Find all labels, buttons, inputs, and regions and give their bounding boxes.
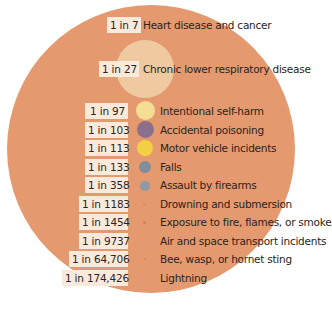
dot-air-transport (144, 240, 146, 242)
odds-box-respiratory: 1 in 27 (99, 61, 139, 77)
label-poisoning: Accidental poisoning (160, 122, 264, 138)
label-bee-sting: Bee, wasp, or hornet sting (160, 251, 292, 267)
dot-bee-sting (144, 258, 146, 260)
label-self-harm: Intentional self-harm (160, 103, 264, 119)
label-lightning: Lightning (160, 270, 207, 286)
dot-poisoning (137, 121, 154, 138)
label-fire: Exposure to fire, flames, or smoke (160, 214, 331, 230)
odds-box-bee-sting: 1 in 64,706 (69, 251, 128, 267)
dot-fire (143, 221, 146, 224)
odds-box-motor-vehicle: 1 in 113 (85, 140, 128, 156)
dot-drowning (143, 203, 146, 206)
label-falls: Falls (160, 159, 182, 175)
dot-motor-vehicle (137, 140, 153, 156)
dot-self-harm (136, 101, 155, 120)
label-heart-disease: Heart disease and cancer (143, 17, 271, 33)
odds-box-lightning: 1 in 174,426 (62, 270, 128, 286)
odds-box-self-harm: 1 in 97 (85, 103, 128, 119)
dot-lightning (144, 277, 145, 278)
label-firearms: Assault by firearms (160, 177, 256, 193)
odds-box-heart-disease: 1 in 7 (107, 17, 141, 33)
odds-box-firearms: 1 in 358 (85, 177, 128, 193)
odds-box-drowning: 1 in 1183 (79, 196, 128, 212)
dot-falls (139, 161, 151, 173)
odds-box-air-transport: 1 in 9737 (79, 233, 128, 249)
dot-firearms (140, 181, 150, 191)
label-air-transport: Air and space transport incidents (160, 233, 326, 249)
odds-box-fire: 1 in 1454 (79, 214, 128, 230)
label-drowning: Drowning and submersion (160, 196, 292, 212)
label-respiratory: Chronic lower respiratory disease (143, 61, 311, 77)
odds-box-poisoning: 1 in 103 (85, 122, 128, 138)
label-motor-vehicle: Motor vehicle incidents (160, 140, 276, 156)
odds-box-falls: 1 in 133 (85, 159, 128, 175)
